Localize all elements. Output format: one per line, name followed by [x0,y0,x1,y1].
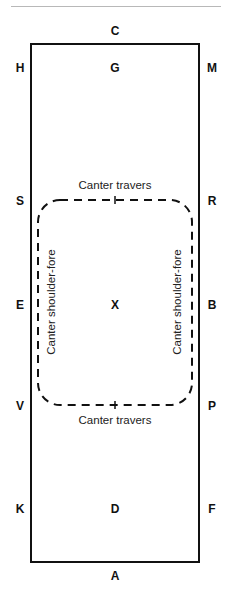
marker-m: M [207,61,217,75]
marker-x: X [111,298,119,312]
marker-b: B [208,298,217,312]
marker-r: R [208,194,217,208]
label-right-shoulder-fore: Canter shoulder-fore [171,249,183,354]
label-left-shoulder-fore: Canter shoulder-fore [45,249,57,354]
marker-p: P [208,399,216,413]
marker-s: S [16,194,24,208]
marker-g: G [110,61,119,75]
marker-v: V [16,399,24,413]
marker-h: H [16,61,25,75]
marker-c: C [111,24,120,38]
label-bottom-travers: Canter travers [79,414,152,426]
marker-a: A [111,569,120,583]
marker-e: E [16,298,24,312]
label-top-travers: Canter travers [79,179,152,191]
marker-f: F [208,502,215,516]
arena-diagram: C A H G M S R E X B V P K D F Canter tra… [0,0,240,601]
marker-k: K [16,502,25,516]
marker-d: D [111,502,120,516]
